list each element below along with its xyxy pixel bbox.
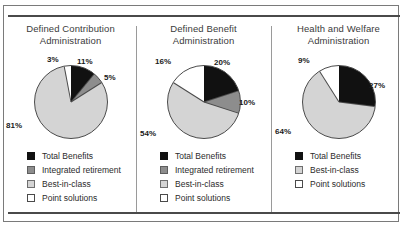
legend-item: Total Benefits bbox=[295, 149, 404, 163]
legend-label: Point solutions bbox=[42, 193, 97, 203]
slice-separator bbox=[173, 82, 204, 102]
chart-panel-health-and-welfare: Health and Welfare Administration 27% 64… bbox=[273, 20, 404, 210]
panel-divider-2 bbox=[271, 26, 272, 212]
top-rule bbox=[8, 15, 400, 17]
panel-title-line1: Defined Contribution bbox=[9, 23, 132, 35]
panel-title: Defined Benefit Administration bbox=[138, 20, 269, 47]
slice-label-best-in-class: 81% bbox=[6, 121, 22, 130]
slice-label-integrated-retirement: 5% bbox=[104, 73, 116, 82]
pie-chart bbox=[302, 65, 376, 139]
slice-label-total-benefits: 11% bbox=[77, 57, 93, 66]
legend-item: Total Benefits bbox=[27, 149, 136, 163]
legend-swatch-best-in-class bbox=[295, 166, 303, 174]
legend-label: Best-in-class bbox=[175, 179, 224, 189]
slice-label-point-solutions: 16% bbox=[155, 57, 171, 66]
legend-item: Best-in-class bbox=[27, 177, 136, 191]
legend: Total Benefits Integrated retirement Bes… bbox=[5, 149, 136, 205]
panel-title-line2: Administration bbox=[277, 35, 400, 47]
legend-swatch-point-solutions bbox=[160, 194, 168, 202]
panel-title: Defined Contribution Administration bbox=[5, 20, 136, 47]
pie-area: 20% 10% 54% 16% bbox=[138, 51, 269, 147]
panel-title: Health and Welfare Administration bbox=[273, 20, 404, 47]
legend-label: Integrated retirement bbox=[175, 165, 254, 175]
legend-item: Best-in-class bbox=[160, 177, 269, 191]
legend-swatch-total-benefits bbox=[27, 152, 35, 160]
legend-swatch-total-benefits bbox=[160, 152, 168, 160]
legend-swatch-best-in-class bbox=[27, 180, 35, 188]
pie-area: 27% 64% 9% bbox=[273, 51, 404, 147]
pie-area: 11% 5% 81% 3% bbox=[5, 51, 136, 147]
legend-label: Total Benefits bbox=[175, 151, 226, 161]
legend-label: Best-in-class bbox=[310, 165, 359, 175]
legend-label: Point solutions bbox=[175, 193, 230, 203]
legend-label: Total Benefits bbox=[42, 151, 93, 161]
slice-label-point-solutions: 3% bbox=[47, 55, 59, 64]
slice-label-best-in-class: 64% bbox=[275, 127, 291, 136]
legend-item: Best-in-class bbox=[295, 163, 404, 177]
legend-label: Point solutions bbox=[310, 179, 365, 189]
slice-separator bbox=[70, 82, 101, 102]
legend-label: Integrated retirement bbox=[42, 165, 121, 175]
slice-separator bbox=[338, 102, 374, 108]
panel-title-line2: Administration bbox=[142, 35, 265, 47]
legend-item: Total Benefits bbox=[160, 149, 269, 163]
legend-item: Integrated retirement bbox=[160, 163, 269, 177]
legend-item: Point solutions bbox=[27, 191, 136, 205]
panel-divider-1 bbox=[136, 26, 137, 212]
legend-swatch-integrated-retirement bbox=[27, 166, 35, 174]
slice-separator bbox=[203, 90, 238, 102]
slice-separator bbox=[319, 71, 339, 102]
panel-title-line1: Defined Benefit bbox=[142, 23, 265, 35]
legend-swatch-point-solutions bbox=[27, 194, 35, 202]
legend-label: Best-in-class bbox=[42, 179, 91, 189]
legend-swatch-best-in-class bbox=[160, 180, 168, 188]
legend-swatch-integrated-retirement bbox=[160, 166, 168, 174]
legend: Total Benefits Integrated retirement Bes… bbox=[138, 149, 269, 205]
chart-panel-defined-contribution: Defined Contribution Administration 11% … bbox=[5, 20, 136, 210]
slice-label-total-benefits: 20% bbox=[214, 58, 230, 67]
legend-item: Integrated retirement bbox=[27, 163, 136, 177]
legend-swatch-point-solutions bbox=[295, 180, 303, 188]
slice-label-integrated-retirement: 10% bbox=[239, 98, 255, 107]
pie-chart bbox=[167, 65, 241, 139]
slice-label-best-in-class: 54% bbox=[140, 129, 156, 138]
bottom-rule bbox=[8, 212, 400, 214]
figure-container: Defined Contribution Administration 11% … bbox=[3, 5, 399, 222]
legend-item: Point solutions bbox=[160, 191, 269, 205]
panel-title-line1: Health and Welfare bbox=[277, 23, 400, 35]
slice-label-total-benefits: 27% bbox=[369, 81, 385, 90]
legend-item: Point solutions bbox=[295, 177, 404, 191]
pie-chart bbox=[34, 65, 108, 139]
chart-panel-defined-benefit: Defined Benefit Administration 20% 10% 5… bbox=[138, 20, 269, 210]
slice-separator bbox=[203, 102, 238, 114]
legend-swatch-total-benefits bbox=[295, 152, 303, 160]
panel-title-line2: Administration bbox=[9, 35, 132, 47]
legend-label: Total Benefits bbox=[310, 151, 361, 161]
slice-label-point-solutions: 9% bbox=[298, 56, 310, 65]
legend: Total Benefits Best-in-class Point solut… bbox=[273, 149, 404, 191]
slice-separator bbox=[63, 67, 71, 103]
